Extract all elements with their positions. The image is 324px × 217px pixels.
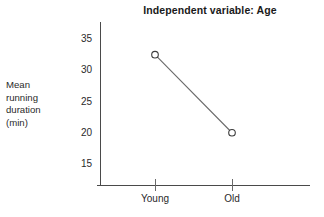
chart-figure: Independent variable: Age Mean running d… [0, 0, 324, 217]
data-point-old [229, 129, 236, 136]
data-point-young [152, 51, 159, 58]
data-series [0, 0, 324, 217]
series-line [155, 55, 232, 133]
plot-area: 3530252015 YoungOld [0, 0, 324, 217]
